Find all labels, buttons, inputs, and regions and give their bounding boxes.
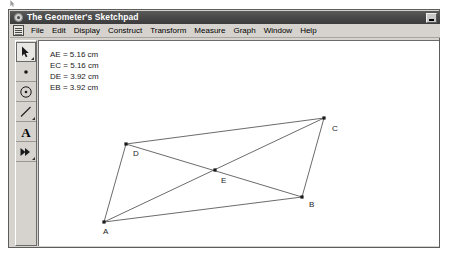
point-E[interactable]	[213, 168, 216, 171]
svg-text:A: A	[21, 125, 31, 139]
application-window: The Geometer's Sketchpad File Edit Displ…	[8, 9, 440, 248]
menu-item-file[interactable]: File	[27, 24, 48, 37]
menu-item-edit[interactable]: Edit	[48, 24, 70, 37]
label-D[interactable]: D	[133, 149, 139, 158]
label-C[interactable]: C	[332, 124, 338, 133]
point-tool[interactable]	[16, 62, 36, 82]
sketchpad-icon	[14, 13, 23, 22]
segment-C-B[interactable]	[302, 118, 324, 197]
menu-item-window[interactable]: Window	[260, 24, 296, 37]
selection-arrow-tool[interactable]	[16, 42, 36, 62]
label-E[interactable]: E	[221, 176, 226, 185]
segment-B-A[interactable]	[104, 197, 302, 222]
tool-expand-corner-icon[interactable]	[32, 117, 35, 120]
point-B[interactable]	[300, 195, 303, 198]
minimize-button[interactable]	[426, 13, 437, 23]
straightedge-segment-tool[interactable]	[16, 102, 36, 122]
menu-item-transform[interactable]: Transform	[146, 24, 190, 37]
window-title: The Geometer's Sketchpad	[27, 11, 139, 24]
menu-bar: File Edit Display Construct Transform Me…	[10, 24, 440, 38]
text-tool[interactable]: A	[16, 122, 36, 142]
point-D[interactable]	[124, 142, 127, 145]
point-A[interactable]	[102, 220, 105, 223]
toolbox-palette: A	[15, 40, 37, 246]
menu-item-measure[interactable]: Measure	[190, 24, 229, 37]
window-controls	[426, 13, 438, 23]
tool-expand-corner-icon[interactable]	[32, 157, 35, 160]
tool-expand-corner-icon[interactable]	[31, 57, 34, 60]
minimize-icon	[429, 19, 434, 21]
menu-item-graph[interactable]: Graph	[229, 24, 259, 37]
label-B[interactable]: B	[309, 200, 314, 209]
document-icon[interactable]	[13, 25, 24, 36]
stray-pointer-icon	[10, 0, 15, 7]
point-C[interactable]	[322, 116, 325, 119]
label-A[interactable]: A	[103, 227, 109, 236]
sketch-canvas[interactable]: AE = 5.16 cm EC = 5.16 cm DE = 3.92 cm E…	[38, 40, 439, 246]
title-bar[interactable]: The Geometer's Sketchpad	[10, 11, 440, 24]
point-labels-group: ABCDE	[103, 124, 338, 236]
parallelogram-figure: ABCDE	[39, 41, 439, 246]
custom-transform-tool[interactable]	[16, 142, 36, 162]
segment-A-D[interactable]	[104, 144, 126, 222]
menu-item-construct[interactable]: Construct	[104, 24, 146, 37]
segment-D-C[interactable]	[126, 118, 324, 144]
menu-item-display[interactable]: Display	[70, 24, 104, 37]
compass-circle-tool[interactable]	[16, 82, 36, 102]
menu-item-help[interactable]: Help	[296, 24, 320, 37]
